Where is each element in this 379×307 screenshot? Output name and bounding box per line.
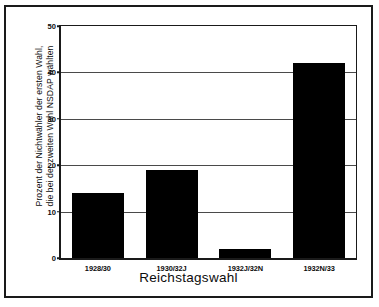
y-tick-label: 40 [48, 68, 56, 77]
y-tick-mark [57, 72, 61, 74]
bar [219, 249, 271, 258]
y-tick-label: 0 [52, 254, 56, 263]
y-axis-title-line-1: Prozent der Nichtwähler der ersten Wahl, [34, 46, 45, 207]
x-axis-title: Reichstagswahl [6, 270, 371, 285]
bar [293, 63, 345, 258]
y-axis-title: Prozent der Nichtwähler der ersten Wahl,… [28, 8, 62, 244]
y-tick-label: 20 [48, 161, 56, 170]
figure-frame: Prozent der Nichtwähler der ersten Wahl,… [4, 5, 373, 298]
y-tick-mark [57, 257, 61, 259]
y-tick-mark [57, 164, 61, 166]
bar [72, 193, 124, 258]
y-tick-mark [57, 211, 61, 213]
y-tick-label: 10 [48, 207, 56, 216]
y-tick-label: 30 [48, 114, 56, 123]
y-tick-label: 50 [48, 22, 56, 31]
plot-area: 010203040501928/301930/32J1932J/32N1932N… [59, 25, 357, 260]
y-tick-mark [57, 118, 61, 120]
y-tick-mark [57, 25, 61, 27]
bar [146, 170, 198, 258]
